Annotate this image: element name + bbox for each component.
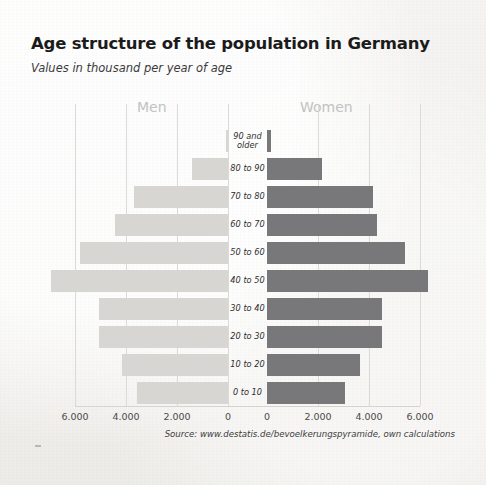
tick-label-left-0: 0 bbox=[225, 411, 231, 422]
source-note: Source: www.destatis.de/bevoelkerungspyr… bbox=[165, 429, 455, 439]
tick-label-right-6000: 6.000 bbox=[406, 411, 433, 422]
chart-page: Age structure of the population in Germa… bbox=[0, 0, 486, 485]
bar-row: 40 to 50 bbox=[0, 270, 486, 292]
bar-row: 80 to 90 bbox=[0, 158, 486, 180]
age-group-label: 70 to 80 bbox=[228, 186, 267, 208]
bar-women-0-to-10 bbox=[267, 382, 345, 404]
bar-women-20-to-30 bbox=[267, 326, 382, 348]
bar-women-10-to-20 bbox=[267, 354, 360, 376]
bar-men-70-to-80 bbox=[134, 186, 228, 208]
age-group-label: 20 to 30 bbox=[228, 326, 267, 348]
age-group-label: 80 to 90 bbox=[228, 158, 267, 180]
tick-label-right-4000: 4.000 bbox=[355, 411, 382, 422]
bar-row: 20 to 30 bbox=[0, 326, 486, 348]
bar-men-20-to-30 bbox=[99, 326, 228, 348]
bar-men-40-to-50 bbox=[51, 270, 228, 292]
age-group-label: 10 to 20 bbox=[228, 354, 267, 376]
bar-men-50-to-60 bbox=[80, 242, 228, 264]
tick-label-left-2000: 2.000 bbox=[163, 411, 190, 422]
bar-row: 10 to 20 bbox=[0, 354, 486, 376]
bar-men-30-to-40 bbox=[99, 298, 228, 320]
bar-men-10-to-20 bbox=[122, 354, 228, 376]
age-group-label: 50 to 60 bbox=[228, 242, 267, 264]
tick-label-left-4000: 4.000 bbox=[112, 411, 139, 422]
age-group-label: 30 to 40 bbox=[228, 298, 267, 320]
bar-row: 60 to 70 bbox=[0, 214, 486, 236]
bar-women-80-to-90 bbox=[267, 158, 322, 180]
tick-label-right-0: 0 bbox=[264, 411, 270, 422]
bar-women-60-to-70 bbox=[267, 214, 377, 236]
pyramid-plot-area: 6.0004.0002.000002.0004.0006.000 90 and … bbox=[0, 0, 486, 485]
bar-row: 90 and older bbox=[0, 130, 486, 152]
bar-women-70-to-80 bbox=[267, 186, 373, 208]
bar-row: 70 to 80 bbox=[0, 186, 486, 208]
age-group-label: 90 and older bbox=[228, 130, 267, 152]
bar-men-80-to-90 bbox=[192, 158, 228, 180]
bar-row: 0 to 10 bbox=[0, 382, 486, 404]
bar-women-30-to-40 bbox=[267, 298, 382, 320]
bar-women-90-and-older bbox=[267, 130, 271, 152]
bar-row: 50 to 60 bbox=[0, 242, 486, 264]
bar-row: 30 to 40 bbox=[0, 298, 486, 320]
bar-men-60-to-70 bbox=[115, 214, 228, 236]
bar-women-40-to-50 bbox=[267, 270, 428, 292]
age-group-label: 60 to 70 bbox=[228, 214, 267, 236]
x-axis-line bbox=[75, 406, 420, 407]
tick-label-right-2000: 2.000 bbox=[304, 411, 331, 422]
age-group-label: 0 to 10 bbox=[228, 382, 267, 404]
tick-label-left-6000: 6.000 bbox=[61, 411, 88, 422]
corner-mark bbox=[35, 445, 41, 447]
age-group-label: 40 to 50 bbox=[228, 270, 267, 292]
bar-women-50-to-60 bbox=[267, 242, 405, 264]
bar-men-0-to-10 bbox=[137, 382, 228, 404]
